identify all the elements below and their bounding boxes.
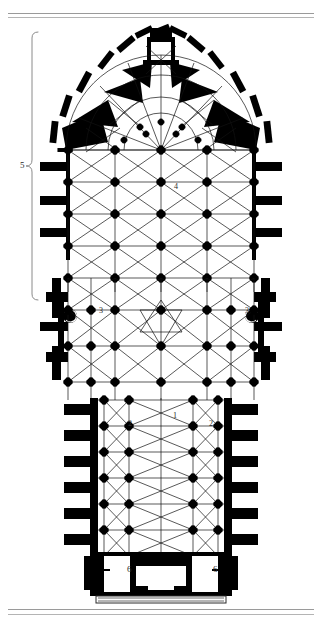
- west-platform: [96, 596, 226, 603]
- west-steps: [98, 598, 224, 601]
- label-tower-left: 6: [127, 565, 132, 574]
- choir-group: [40, 145, 282, 292]
- nave-group: [64, 395, 258, 558]
- bottom-rule-2: [8, 614, 314, 615]
- choir-vault-ribs: [68, 150, 254, 292]
- transept-group: [40, 278, 282, 400]
- label-chevet: 5: [20, 161, 25, 170]
- label-choir: 4: [174, 183, 178, 191]
- label-transept-right: 3: [245, 307, 249, 315]
- chevet-group: [49, 24, 272, 166]
- west-front-group: [84, 552, 238, 603]
- cathedral-plan-drawing: [0, 0, 322, 626]
- label-tower-right: 6: [213, 565, 218, 574]
- label-nave: 1: [173, 412, 177, 420]
- label-transept-left: 3: [99, 307, 103, 315]
- bottom-rule-1: [8, 609, 314, 610]
- chevet-brace: [26, 32, 38, 300]
- figure-page: 5 4 3 3 1 2 2 6 6: [0, 0, 322, 626]
- nave-vault-ribs: [98, 398, 224, 558]
- label-aisle-right: 2: [209, 420, 213, 428]
- label-aisle-left: 2: [128, 420, 132, 428]
